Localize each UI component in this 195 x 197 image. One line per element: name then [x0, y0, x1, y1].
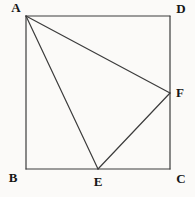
vertex-label-C: C [176, 172, 185, 185]
vertex-label-D: D [176, 2, 185, 15]
segment-AF [26, 16, 170, 93]
diagram-canvas [0, 0, 195, 197]
vertex-label-B: B [9, 171, 18, 184]
vertex-label-A: A [11, 1, 20, 14]
vertex-label-E: E [94, 175, 103, 188]
geometry-diagram: A B C D E F [0, 0, 195, 197]
segment-AE [26, 16, 98, 169]
vertex-label-F: F [176, 86, 184, 99]
segment-EF [98, 93, 170, 169]
